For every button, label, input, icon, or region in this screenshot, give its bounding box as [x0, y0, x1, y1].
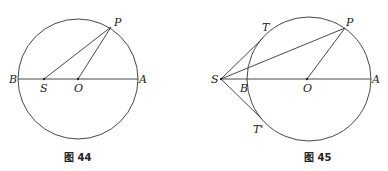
figure-45 [221, 17, 371, 141]
label-S-45: S [211, 73, 219, 86]
label-T-45: T [262, 21, 271, 34]
label-A-45: A [371, 73, 380, 86]
point-S-45 [220, 78, 222, 80]
label-S-44: S [40, 82, 48, 95]
point-O-45 [306, 78, 308, 80]
label-P-45: P [345, 16, 354, 29]
label-A-44: A [138, 73, 147, 86]
diagram-canvas: P B S O A 图 44 T P S B O A T' 图 45 [0, 0, 388, 171]
label-B-44: B [8, 73, 17, 86]
label-B-45: B [239, 82, 248, 95]
label-O-44: O [74, 82, 83, 95]
point-S-44 [43, 78, 45, 80]
point-O-44 [77, 78, 79, 80]
caption-45: 图 45 [304, 152, 331, 163]
segment-SP-44 [44, 27, 111, 79]
label-O-45: O [303, 82, 312, 95]
caption-44: 图 44 [64, 152, 91, 163]
tangent-ST-45 [221, 38, 263, 79]
label-P-44: P [113, 16, 122, 29]
segment-OP-44 [78, 27, 111, 79]
label-T-prime-45: T' [253, 123, 263, 136]
